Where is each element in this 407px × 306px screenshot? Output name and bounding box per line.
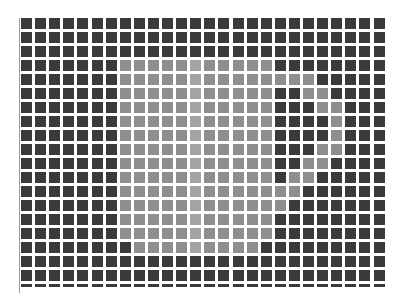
dark-tile bbox=[317, 46, 328, 57]
light-tile bbox=[204, 144, 215, 155]
dark-tile bbox=[204, 32, 215, 43]
dark-tile bbox=[77, 172, 88, 183]
light-tile bbox=[176, 228, 187, 239]
light-tile bbox=[261, 116, 272, 127]
dark-tile bbox=[359, 144, 370, 155]
light-tile bbox=[134, 200, 145, 211]
light-tile bbox=[176, 172, 187, 183]
dark-tile bbox=[289, 270, 300, 281]
dark-tile bbox=[218, 32, 229, 43]
highlight-tile bbox=[190, 116, 201, 127]
dark-tile bbox=[359, 270, 370, 281]
light-tile bbox=[148, 158, 159, 169]
dark-tile bbox=[92, 158, 103, 169]
light-tile bbox=[120, 116, 131, 127]
dark-tile bbox=[49, 256, 60, 267]
light-tile bbox=[218, 186, 229, 197]
dark-tile bbox=[261, 284, 272, 287]
dark-tile bbox=[218, 284, 229, 287]
light-tile bbox=[162, 200, 173, 211]
dark-tile bbox=[92, 60, 103, 71]
light-tile bbox=[218, 242, 229, 253]
light-tile bbox=[247, 200, 258, 211]
highlight-tile bbox=[190, 214, 201, 225]
dark-tile bbox=[345, 228, 356, 239]
dark-tile bbox=[106, 102, 117, 113]
dark-tile bbox=[63, 242, 74, 253]
dark-tile bbox=[289, 242, 300, 253]
light-tile bbox=[176, 102, 187, 113]
light-tile bbox=[162, 116, 173, 127]
dark-tile bbox=[275, 60, 286, 71]
light-tile bbox=[218, 144, 229, 155]
light-tile bbox=[120, 158, 131, 169]
dark-tile bbox=[331, 18, 342, 29]
dark-tile bbox=[120, 270, 131, 281]
dark-tile bbox=[303, 18, 314, 29]
highlight-tile bbox=[190, 60, 201, 71]
light-tile bbox=[218, 130, 229, 141]
dark-tile bbox=[317, 74, 328, 85]
light-tile bbox=[289, 74, 300, 85]
dark-tile bbox=[275, 172, 286, 183]
light-tile bbox=[233, 88, 244, 99]
dark-tile bbox=[77, 200, 88, 211]
light-tile bbox=[120, 144, 131, 155]
dark-tile bbox=[134, 18, 145, 29]
dark-tile bbox=[49, 60, 60, 71]
light-tile bbox=[218, 228, 229, 239]
dark-tile bbox=[345, 172, 356, 183]
dark-tile bbox=[345, 200, 356, 211]
dark-tile bbox=[120, 32, 131, 43]
light-tile bbox=[261, 200, 272, 211]
dark-tile bbox=[359, 88, 370, 99]
dark-tile bbox=[374, 88, 385, 99]
dark-tile bbox=[289, 200, 300, 211]
light-tile bbox=[275, 200, 286, 211]
dark-tile bbox=[77, 46, 88, 57]
dark-tile bbox=[49, 270, 60, 281]
dark-tile bbox=[92, 228, 103, 239]
dark-tile bbox=[331, 172, 342, 183]
dark-tile bbox=[303, 284, 314, 287]
dark-tile bbox=[374, 60, 385, 71]
light-tile bbox=[162, 228, 173, 239]
dark-tile bbox=[106, 284, 117, 287]
dark-tile bbox=[77, 130, 88, 141]
dark-tile bbox=[92, 242, 103, 253]
dark-tile bbox=[77, 102, 88, 113]
dark-tile bbox=[317, 228, 328, 239]
dark-tile bbox=[303, 186, 314, 197]
light-tile bbox=[120, 186, 131, 197]
dark-tile bbox=[289, 228, 300, 239]
dark-tile bbox=[176, 270, 187, 281]
light-tile bbox=[247, 144, 258, 155]
light-tile bbox=[148, 186, 159, 197]
light-tile bbox=[134, 130, 145, 141]
light-tile bbox=[204, 74, 215, 85]
dark-tile bbox=[35, 284, 46, 287]
dark-tile bbox=[275, 214, 286, 225]
dark-tile bbox=[247, 256, 258, 267]
dark-tile bbox=[120, 18, 131, 29]
highlight-tile bbox=[190, 186, 201, 197]
light-tile bbox=[148, 102, 159, 113]
light-tile bbox=[218, 116, 229, 127]
light-tile bbox=[176, 60, 187, 71]
highlight-tile bbox=[190, 228, 201, 239]
dark-tile bbox=[190, 32, 201, 43]
light-tile bbox=[162, 172, 173, 183]
dark-tile bbox=[233, 46, 244, 57]
dark-tile bbox=[21, 46, 32, 57]
light-tile bbox=[134, 88, 145, 99]
dark-tile bbox=[35, 228, 46, 239]
dark-tile bbox=[92, 18, 103, 29]
dark-tile bbox=[49, 242, 60, 253]
dark-tile bbox=[162, 18, 173, 29]
dark-tile bbox=[359, 74, 370, 85]
dark-tile bbox=[35, 256, 46, 267]
dark-tile bbox=[374, 228, 385, 239]
light-tile bbox=[204, 228, 215, 239]
dark-tile bbox=[92, 144, 103, 155]
light-tile bbox=[233, 186, 244, 197]
